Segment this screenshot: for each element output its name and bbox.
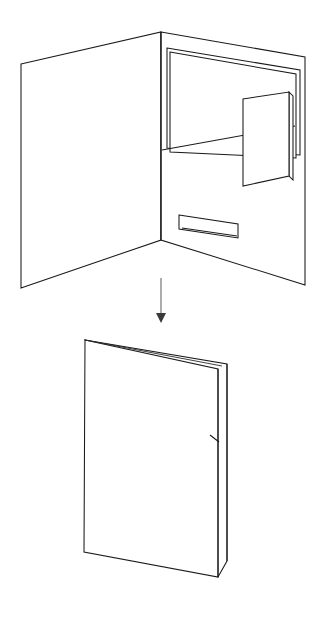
diagram-canvas [0, 0, 329, 619]
open-folder-business-card [243, 92, 289, 186]
transition-arrow-group [156, 278, 166, 323]
transition-arrow-head-icon [156, 313, 166, 323]
open-folder-left-panel [21, 32, 161, 288]
open-folder-group [21, 32, 305, 288]
open-folder-card-slot-edge [289, 92, 293, 180]
closed-folder-group [84, 340, 227, 577]
closed-folder-front-cover [84, 340, 218, 577]
folding-diagram: Line drawing showing an open three-panel… [0, 0, 329, 619]
